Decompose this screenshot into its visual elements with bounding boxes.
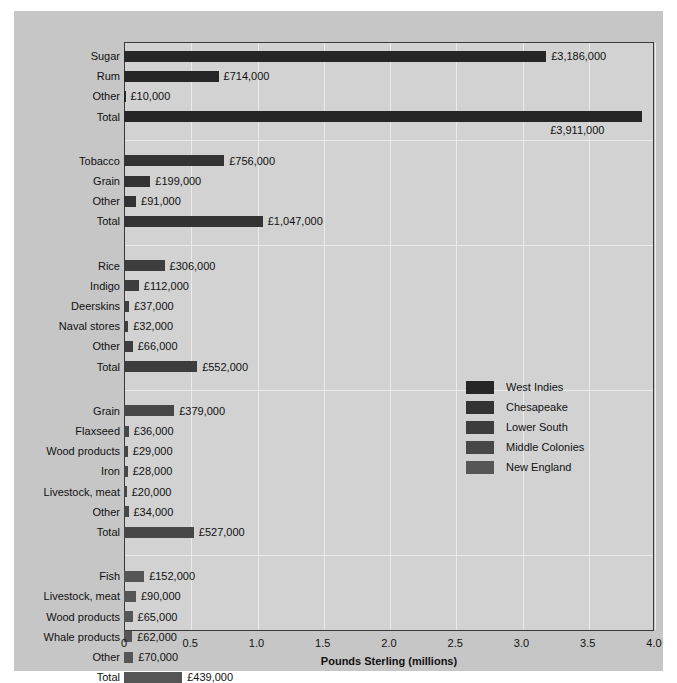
bar [124,446,128,457]
bar [124,260,165,271]
x-axis-tick-label: 3.0 [514,637,529,649]
legend-label: West Indies [506,381,563,394]
bar [124,466,128,477]
legend-swatch [466,461,494,474]
legend-swatch [466,441,494,454]
x-axis-tick-label: 1.0 [249,637,264,649]
bar-value-label: £714,000 [224,71,270,82]
bar-value-label: £28,000 [133,466,173,477]
category-label: Wood products [16,612,120,623]
legend-swatch [466,381,494,394]
bar-value-label: £91,000 [141,196,181,207]
legend-item: West Indies [466,378,626,398]
bar-value-label: £379,000 [179,406,225,417]
category-label: Other [16,507,120,518]
bar-value-label: £306,000 [170,261,216,272]
bar [124,611,133,622]
legend-label: Lower South [506,421,568,434]
category-label: Total [16,216,120,227]
category-label: Whale products [16,632,120,643]
category-labels: SugarRumOtherTotalTobaccoGrainOtherTotal… [14,42,120,631]
legend-swatch [466,401,494,414]
category-label: Wood products [16,446,120,457]
category-label: Grain [16,176,120,187]
x-axis-tick-label: 2.5 [448,637,463,649]
bar [124,321,128,332]
bar-value-label: £37,000 [134,301,174,312]
category-label: Other [16,91,120,102]
category-label: Total [16,112,120,123]
bar [124,280,139,291]
x-axis-tick-label: 0 [121,637,127,649]
legend-item: New England [466,458,626,478]
bar-value-label: £36,000 [134,426,174,437]
bar-value-label: £527,000 [199,527,245,538]
x-axis-tick-label: 3.5 [580,637,595,649]
gridline-vertical [655,43,656,630]
legend-label: New England [506,461,571,474]
category-label: Other [16,341,120,352]
bar-value-label: £152,000 [149,571,195,582]
bar [124,216,263,227]
bar-value-label: £29,000 [133,446,173,457]
category-label: Grain [16,406,120,417]
bar-value-label: £3,911,000 [550,125,604,136]
bar [124,91,126,102]
bar [124,361,197,372]
bar-value-label: £552,000 [202,362,248,373]
bar [124,155,224,166]
bar [124,591,136,602]
chart-legend: West IndiesChesapeakeLower SouthMiddle C… [466,378,626,478]
legend-item: Chesapeake [466,398,626,418]
bar [124,426,129,437]
x-axis-tick-label: 2.0 [381,637,396,649]
bar [124,196,136,207]
category-label: Deerskins [16,301,120,312]
bar-value-label: £3,186,000 [551,51,606,62]
category-label: Fish [16,571,120,582]
legend-label: Middle Colonies [506,441,584,454]
bar [124,301,129,312]
bar [124,486,127,497]
chart-paper: SugarRumOtherTotalTobaccoGrainOtherTotal… [14,11,663,671]
legend-item: Lower South [466,418,626,438]
bar-value-label: £34,000 [134,507,174,518]
category-label: Tobacco [16,156,120,167]
category-label: Rice [16,261,120,272]
category-label: Naval stores [16,321,120,332]
category-label: Total [16,672,120,683]
category-label: Indigo [16,281,120,292]
category-label: Total [16,362,120,373]
bar-value-label: £1,047,000 [268,216,323,227]
bar [124,571,144,582]
bar [124,672,182,683]
bars-layer: £3,186,000£714,000£10,000£3,911,000£756,… [124,42,654,631]
bar [124,176,150,187]
category-label: Other [16,652,120,663]
x-axis-tick-label: 0.5 [183,637,198,649]
bar-value-label: £756,000 [229,156,275,167]
bar-value-label: £90,000 [141,591,181,602]
category-label: Livestock, meat [16,591,120,602]
legend-swatch [466,421,494,434]
bar-value-label: £66,000 [138,341,178,352]
bar [124,527,194,538]
legend-item: Middle Colonies [466,438,626,458]
bar [124,111,642,122]
bar [124,506,129,517]
x-axis-tick-label: 4.0 [646,637,661,649]
category-label: Sugar [16,51,120,62]
category-label: Livestock, meat [16,487,120,498]
bar [124,405,174,416]
legend-label: Chesapeake [506,401,568,414]
category-label: Rum [16,71,120,82]
category-label: Total [16,527,120,538]
bar-value-label: £32,000 [133,321,173,332]
x-axis-title: Pounds Sterling (millions) [124,655,654,667]
bar [124,71,219,82]
category-label: Iron [16,466,120,477]
x-axis-tick-label: 1.5 [315,637,330,649]
category-label: Flaxseed [16,426,120,437]
bar-value-label: £65,000 [138,612,178,623]
